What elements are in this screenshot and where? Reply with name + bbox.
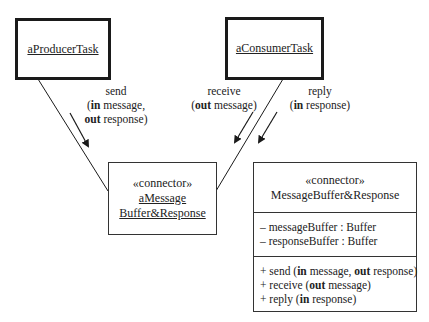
out-keyword: out: [195, 99, 211, 111]
attribute-row: – messageBuffer : Buffer: [260, 220, 416, 234]
out-keyword: out: [85, 113, 101, 125]
receive-message-label: receive (out message): [184, 84, 264, 112]
class-stereotype: «connector»: [305, 173, 364, 188]
in-keyword: in: [91, 99, 101, 111]
operation-row-receive: + receive (out message): [260, 278, 416, 292]
consumer-task-label: aConsumerTask: [236, 41, 313, 56]
attributes-compartment: – messageBuffer : Buffer – responseBuffe…: [254, 213, 416, 257]
connector-instance-name-2: Buffer&Response: [119, 206, 205, 221]
producer-task-label: aProducerTask: [27, 42, 98, 57]
connector-instance-name-1: aMessage: [139, 191, 186, 206]
class-name: MessageBuffer&Response: [271, 188, 399, 203]
operations-compartment: + send (in message, out response) + rece…: [254, 257, 416, 306]
receive-arrow-icon: [235, 112, 253, 142]
reply-arrow-icon: [259, 112, 277, 142]
consumer-task-box[interactable]: aConsumerTask: [225, 17, 324, 80]
operation-row-send: + send (in message, out response): [260, 264, 416, 278]
reply-op-name: reply: [280, 84, 360, 98]
class-name-compartment: «connector» MessageBuffer&Response: [254, 163, 416, 213]
send-op-name: send: [76, 84, 156, 98]
producer-task-box[interactable]: aProducerTask: [15, 18, 111, 80]
connector-instance-box[interactable]: «connector» aMessage Buffer&Response: [108, 162, 217, 235]
attribute-row: – responseBuffer : Buffer: [260, 234, 416, 248]
in-keyword: in: [294, 99, 304, 111]
connector-class-box[interactable]: «connector» MessageBuffer&Response – mes…: [253, 162, 417, 312]
operation-row-reply: + reply (in response): [260, 292, 416, 306]
receive-op-name: receive: [184, 84, 264, 98]
connector-stereotype: «connector»: [133, 176, 192, 191]
reply-message-label: reply (in response): [280, 84, 360, 112]
send-message-label: send (in message, out response): [76, 84, 156, 126]
